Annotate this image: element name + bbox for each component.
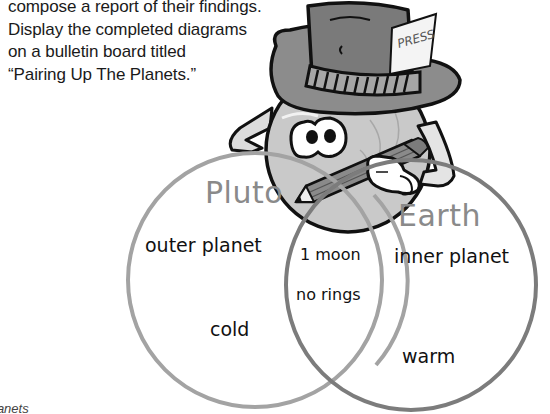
venn-right-item: warm	[402, 345, 455, 367]
venn-overlap-item: no rings	[296, 285, 361, 304]
hat-icon: PRESS	[271, 3, 460, 114]
venn-left-item: outer planet	[145, 234, 262, 256]
character-eyes-icon	[291, 118, 346, 157]
venn-left-title: Pluto	[205, 175, 283, 210]
venn-right-title: Earth	[398, 198, 481, 233]
venn-left-item: cold	[210, 318, 249, 340]
cut-off-caption: lanets	[0, 401, 29, 414]
venn-overlap-item: 1 moon	[300, 245, 361, 264]
venn-right-item: inner planet	[394, 245, 509, 267]
